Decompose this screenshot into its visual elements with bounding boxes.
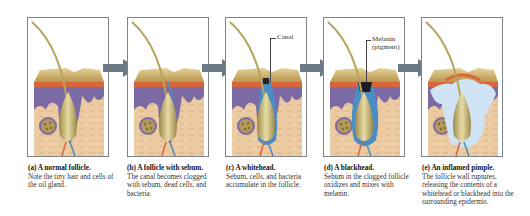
panel-inflamed-pimple	[421, 17, 503, 157]
inflamed-pimple-illustration	[422, 18, 503, 157]
canal-leader-line	[270, 38, 276, 39]
panel-whitehead: Canal	[225, 17, 307, 157]
caption-title: (d) A blackhead.	[324, 164, 416, 173]
caption-normal-follicle: (a) A normal follicle. Note the tiny hai…	[28, 164, 120, 190]
sebum-follicle-illustration	[128, 18, 209, 157]
caption-title: (a) A normal follicle.	[28, 164, 120, 173]
melanin-leader-line	[366, 40, 371, 41]
whitehead-illustration	[226, 18, 307, 157]
caption-description: Sebum, cells, and bacteria accumulate in…	[226, 173, 301, 190]
caption-whitehead: (c) A whitehead. Sebum, cells, and bacte…	[226, 164, 318, 190]
panel-normal-follicle	[27, 17, 109, 157]
caption-title: (e) An inflamed pimple.	[422, 164, 522, 173]
caption-blackhead: (d) A blackhead. Sebum in the clogged fo…	[324, 164, 416, 198]
caption-title: (b) A follicle with sebum.	[127, 164, 219, 173]
caption-description: The follicle wall ruptures, releasing th…	[422, 173, 514, 207]
caption-description: Sebum in the clogged follicle oxidizes a…	[324, 173, 409, 198]
caption-title: (c) A whitehead.	[226, 164, 318, 173]
canal-label: Canal	[277, 34, 293, 42]
normal-follicle-illustration	[28, 18, 109, 157]
melanin-label: Melanin (pigment)	[372, 36, 400, 51]
canal-leader-line	[270, 38, 271, 82]
panel-blackhead: Melanin (pigment)	[323, 17, 405, 157]
melanin-label-line2: (pigment)	[372, 43, 400, 51]
caption-follicle-with-sebum: (b) A follicle with sebum. The canal bec…	[127, 164, 219, 198]
melanin-leader-line	[366, 40, 367, 82]
panel-follicle-with-sebum	[127, 17, 209, 157]
caption-description: The canal becomes clogged with sebum, de…	[127, 173, 207, 198]
caption-inflamed-pimple: (e) An inflamed pimple. The follicle wal…	[422, 164, 522, 207]
caption-description: Note the tiny hair and cells of the oil …	[28, 173, 113, 190]
